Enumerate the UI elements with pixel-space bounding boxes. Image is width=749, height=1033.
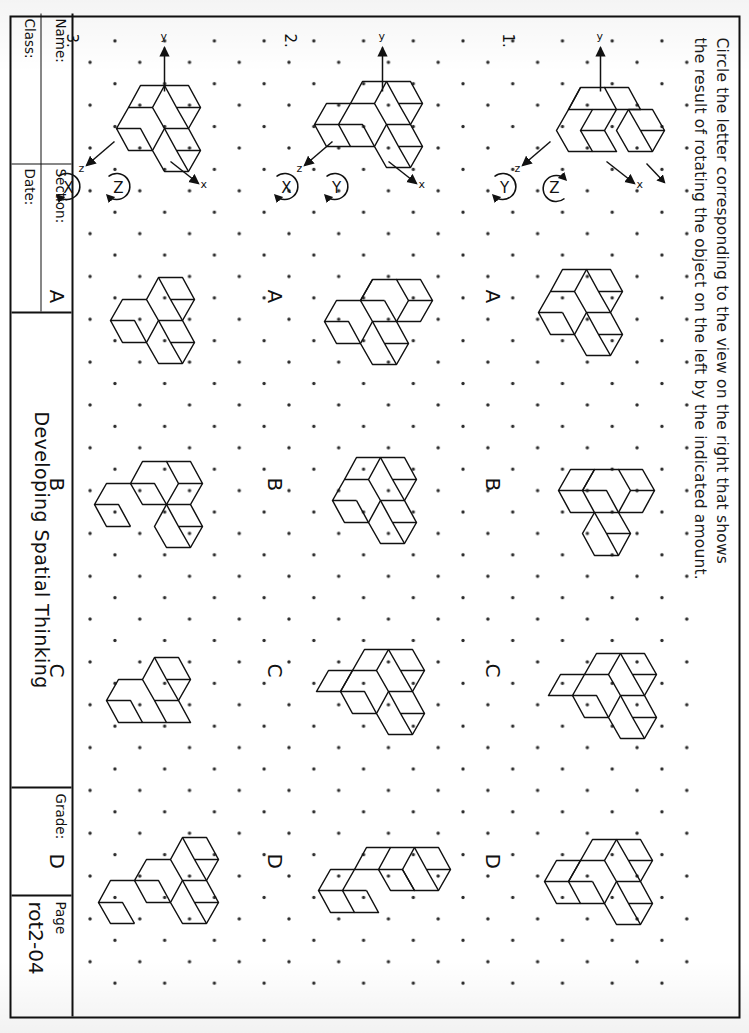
choice-object-1-C[interactable] <box>515 613 690 763</box>
choice-object-1-A[interactable] <box>505 239 680 389</box>
rotation-indicator-3-1: Z <box>98 167 138 207</box>
axis-label-y-2: y <box>378 31 385 42</box>
choice-letter-1-B[interactable]: B <box>480 477 504 491</box>
axis-label-x-2: x <box>418 177 425 190</box>
choice-object-1-B[interactable] <box>513 427 688 577</box>
rotation-axis-label: Z <box>549 178 559 196</box>
worksheet-sheet: Circle the letter corresponding to the v… <box>9 15 740 1018</box>
choice-object-2-D[interactable] <box>297 803 472 953</box>
choice-object-2-B[interactable] <box>287 427 462 577</box>
problem-row-2: 2. y x z Y <box>258 17 476 1016</box>
rotation-indicator-2-2: X <box>266 167 306 207</box>
rotation-indicator-1-1: Z <box>534 167 574 207</box>
choice-letter-2-B[interactable]: B <box>262 477 286 491</box>
choice-letter-1-C[interactable]: C <box>480 663 504 677</box>
title-block-grade: Grade: <box>11 788 71 896</box>
rotation-indicator-2-1: Y <box>316 167 356 207</box>
rotation-indicator-1-2: Y <box>484 167 524 207</box>
title-block-divider-v <box>11 163 71 164</box>
choice-object-3-B[interactable] <box>73 427 248 577</box>
choice-object-1-D[interactable] <box>511 803 686 953</box>
choice-letter-1-D[interactable]: D <box>480 853 504 868</box>
title-block-page: Page rot2-04 <box>11 896 71 1016</box>
book-title: Developing Spatial Thinking <box>30 411 52 688</box>
problem-row-1: 1. y <box>476 17 694 1016</box>
page-label: Page <box>52 901 68 934</box>
axis-label-x-3: x <box>200 177 207 190</box>
choice-letter-2-D[interactable]: D <box>262 853 286 868</box>
title-block-divider-h <box>40 13 41 311</box>
choice-object-3-C[interactable] <box>61 613 236 763</box>
choice-letter-2-C[interactable]: C <box>262 663 286 677</box>
rotation-axis-label: Y <box>330 178 341 196</box>
grade-label: Grade: <box>52 793 68 839</box>
axis-label-x-1: x <box>636 177 643 190</box>
rotation-axis-label: X <box>281 178 291 196</box>
section-label: Section: <box>52 168 68 223</box>
title-block-book-title: Developing Spatial Thinking <box>11 313 71 788</box>
title-block: Name: Section: Class: Date: Developing S… <box>11 13 73 1016</box>
instructions-line-1: Circle the letter corresponding to the v… <box>712 37 730 564</box>
choice-letter-1-A[interactable]: A <box>480 289 504 303</box>
choice-object-3-A[interactable] <box>65 239 240 389</box>
choice-object-2-C[interactable] <box>295 613 470 763</box>
choice-object-2-A[interactable] <box>291 239 466 389</box>
name-label: Name: <box>52 18 68 62</box>
choice-letter-2-A[interactable]: A <box>262 289 286 303</box>
rotation-axis-label: Z <box>113 178 123 196</box>
class-label: Class: <box>21 18 37 58</box>
axis-label-y-1: y <box>596 31 603 42</box>
rotation-axis-label: Y <box>498 178 509 196</box>
axis-label-y-3: y <box>160 31 167 42</box>
page-number: rot2-04 <box>23 901 47 974</box>
title-block-student-fields: Name: Section: Class: Date: <box>11 13 71 313</box>
choice-object-3-D[interactable] <box>77 803 252 953</box>
date-label: Date: <box>21 168 37 205</box>
